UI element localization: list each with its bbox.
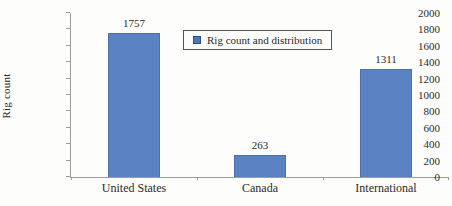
x-axis-category-label: Canada [205,181,315,196]
y-axis-tick-mark [66,78,70,79]
y-axis-tick-mark [66,45,70,46]
legend-label: Rig count and distribution [207,35,322,46]
y-axis-tick-mark [66,12,70,13]
x-axis-category-label: International [331,181,441,196]
y-axis-tick-label: 1800 [400,24,440,35]
y-axis-tick-label: 2000 [400,8,440,19]
y-axis-title: Rig count [0,63,12,129]
y-axis-tick-mark [66,160,70,161]
bar-value-label: 1757 [94,18,174,29]
y-axis-tick-mark [66,61,70,62]
y-axis-tick-mark [66,176,70,177]
bar-united-states [108,33,160,177]
bar-canada [234,155,286,177]
rig-count-bar-chart: Rig count 020040060080010001200140016001… [0,0,452,206]
y-axis-tick-mark [66,143,70,144]
bar-international [360,69,412,177]
y-axis-tick-mark [66,127,70,128]
y-axis-tick-mark [66,94,70,95]
legend-square-icon [193,36,201,44]
legend: Rig count and distribution [183,30,332,50]
bar-value-label: 263 [220,140,300,151]
x-axis-tick-mark [448,177,449,180]
y-axis-tick-mark [66,110,70,111]
y-axis-tick-label: 1600 [400,41,440,52]
bar-value-label: 1311 [346,54,426,65]
y-axis-tick-mark [66,28,70,29]
x-axis-tick-mark [71,177,72,180]
x-axis-category-label: United States [79,181,189,196]
x-axis-tick-mark [197,177,198,180]
x-axis-tick-mark [323,177,324,180]
